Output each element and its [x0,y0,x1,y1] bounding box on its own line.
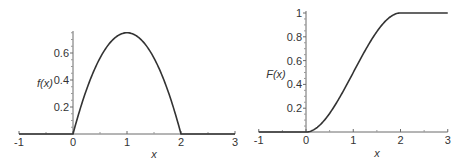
pdf-y-tick-label: 0.2 [54,101,69,113]
pdf-y-tick-label: 0.6 [54,47,69,59]
pdf-x-tick-label: -1 [14,136,24,148]
cdf-y-tick-label: 0.2 [287,102,302,114]
pdf-x-tick-label: 0 [70,136,76,148]
cdf-y-tick-label: 0.8 [287,31,302,43]
pdf-chart: -101230.20.40.6 x f(x) [14,31,238,160]
cdf-y-axis-title: F(x) [266,68,286,80]
cdf-x-tick-label: 0 [303,134,309,146]
pdf-y-axis-title: f(x) [37,77,53,89]
cdf-chart: -101230.20.40.60.81 x F(x) [254,7,451,159]
pdf-y-tick-label: 0.4 [54,74,69,86]
pdf-tick-labels: -101230.20.40.6 [14,47,238,148]
cdf-x-tick-label: -1 [254,134,264,146]
chart-figure: -101230.20.40.6 x f(x) -101230.20.40.60.… [0,0,463,166]
pdf-x-tick-label: 2 [178,136,184,148]
pdf-x-tick-label: 1 [124,136,130,148]
pdf-x-tick-label: 3 [232,136,238,148]
cdf-x-tick-label: 2 [397,134,403,146]
cdf-x-axis-title: x [373,147,380,159]
cdf-x-tick-label: 3 [445,134,451,146]
pdf-x-axis-title: x [150,148,157,160]
cdf-x-tick-label: 1 [350,134,356,146]
cdf-y-tick-label: 0.4 [287,78,302,90]
cdf-y-tick-label: 1 [296,7,302,19]
cdf-y-tick-label: 0.6 [287,55,302,67]
